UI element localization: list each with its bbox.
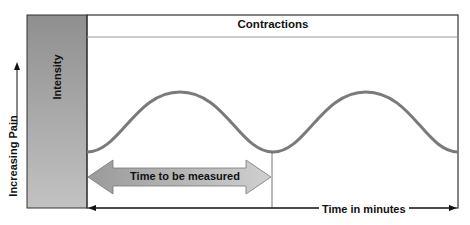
contraction-wave <box>87 92 458 152</box>
contraction-diagram <box>0 0 470 225</box>
arrow-up-icon <box>14 62 20 70</box>
time-axis-label: Time in minutes <box>319 203 409 215</box>
header-title: Contractions <box>88 18 458 30</box>
pain-text: Increasing Pain <box>7 115 19 196</box>
pain-axis-label: Increasing Pain <box>0 126 28 186</box>
arrow-right-icon <box>449 205 457 211</box>
intensity-label: Intensity <box>28 42 86 112</box>
arrow-left-icon <box>88 205 96 211</box>
intensity-text: Intensity <box>51 54 63 99</box>
measure-label: Time to be measured <box>120 170 250 182</box>
